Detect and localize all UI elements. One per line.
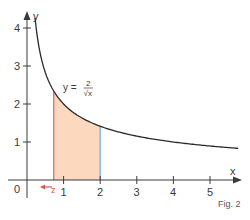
x-tick-label-5: 5 (207, 186, 213, 198)
y-tick-label-3: 3 (14, 60, 20, 72)
x-axis-label: x (230, 165, 236, 177)
x-tick-label-4: 4 (170, 186, 176, 198)
z-label: z (51, 185, 56, 195)
x-tick-label-1: 1 (61, 186, 67, 198)
equation-denominator: √x (84, 89, 92, 98)
x-tick-label-3: 3 (134, 186, 140, 198)
x-tick-label-2: 2 (97, 186, 103, 198)
z-arrow-left-icon (40, 185, 45, 190)
x-axis-arrow-icon (233, 177, 242, 184)
plot: 1 2 3 4 5 1 2 3 4 0 x y y = 2 √x z Fig. … (0, 0, 250, 220)
figure: 1 2 3 4 5 1 2 3 4 0 x y y = 2 √x z Fig. … (0, 0, 250, 220)
equation-lhs: y = (63, 82, 77, 93)
y-tick-label-2: 2 (14, 98, 20, 110)
y-axis-label: y (33, 10, 39, 22)
figure-caption: Fig. 2 (218, 199, 241, 209)
y-tick-label-1: 1 (14, 136, 20, 148)
y-tick-label-4: 4 (14, 22, 20, 34)
equation-numerator: 2 (86, 79, 91, 88)
shaded-area (54, 91, 100, 180)
y-axis-arrow-icon (24, 11, 31, 20)
origin-label: 0 (14, 183, 20, 195)
